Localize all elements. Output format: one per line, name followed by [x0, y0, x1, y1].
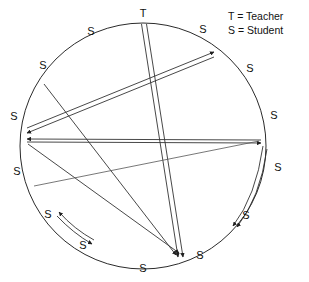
node-label-layer: T S S S S S S S S S S S S S — [10, 7, 281, 274]
node-label-student-upperleft: S — [39, 59, 46, 71]
legend: T = Teacher S = Student — [228, 10, 284, 36]
node-label-student-bottomleft-a: S — [44, 208, 51, 220]
node-label-student-lowerleft: S — [13, 165, 20, 177]
node-label-student-rightlower: S — [274, 161, 281, 173]
node-label-student-bottomright: S — [196, 249, 203, 261]
edge-layer — [27, 24, 267, 257]
node-label-student-lowerright: S — [242, 209, 249, 221]
node-label-student-bottomleft-b: S — [79, 239, 86, 251]
edge-student-bottomright-to-teacher-b — [147, 24, 184, 257]
node-label-student-topright: S — [199, 23, 206, 35]
sociogram-figure: T S S S S S S S S S S S S S T = Teacher … — [0, 0, 309, 282]
legend-item-teacher: T = Teacher — [228, 10, 284, 22]
node-label-student-bottom: S — [139, 262, 146, 274]
sociogram-circle — [20, 23, 266, 269]
node-label-student-left: S — [10, 110, 17, 122]
edge-student-left-to-student-upperright — [27, 52, 214, 128]
edge-student-right-to-student-left — [27, 139, 261, 140]
legend-item-student: S = Student — [228, 24, 283, 36]
node-label-teacher-top: T — [140, 7, 147, 19]
sociogram-canvas: T S S S S S S S S S S S S S T = Teacher … — [0, 0, 309, 282]
node-label-student-upperright: S — [246, 62, 253, 74]
edge-student-left-to-student-right — [27, 142, 261, 143]
edge-student-bottomleft-b-to-a — [57, 216, 92, 244]
edge-student-upperright-to-student-left — [27, 57, 214, 133]
node-label-student-topleft: S — [87, 25, 94, 37]
node-label-student-right: S — [270, 109, 277, 121]
edge-teacher-to-student-bottomright-a — [142, 24, 179, 257]
edge-student-lowerleft-to-student-right — [34, 141, 259, 186]
edge-student-bottomleft-a-to-b — [59, 212, 94, 240]
